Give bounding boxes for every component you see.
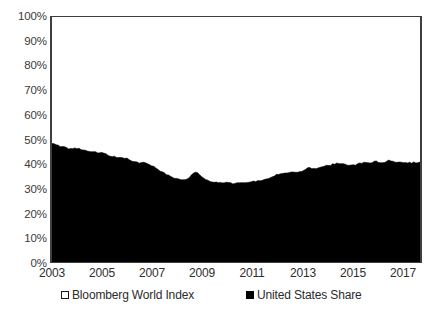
chart-legend: Bloomberg World Index United States Shar… xyxy=(50,288,422,310)
legend-item-united-states-share: United States Share xyxy=(246,288,362,302)
x-axis-tick-label: 2005 xyxy=(80,266,124,280)
y-axis-tick-label: 70% xyxy=(0,84,47,96)
y-axis-tick-label: 60% xyxy=(0,109,47,121)
x-axis-tick-label: 2011 xyxy=(230,266,274,280)
area-chart-svg xyxy=(52,17,420,262)
y-axis-tick-label: 100% xyxy=(0,10,47,22)
legend-filled-square-icon xyxy=(246,291,254,299)
plot-area xyxy=(50,16,422,263)
chart-container: 100% 90% 80% 70% 60% 50% 40% 30% 20% 10%… xyxy=(0,0,435,320)
y-axis-tick-label: 20% xyxy=(0,208,47,220)
x-axis-tick-label: 2009 xyxy=(180,266,224,280)
x-axis-tick-label: 2007 xyxy=(130,266,174,280)
legend-item-bloomberg-world-index: Bloomberg World Index xyxy=(61,288,194,302)
y-axis-tick-label: 90% xyxy=(0,35,47,47)
legend-hollow-square-icon xyxy=(61,291,69,299)
united-states-share-area xyxy=(52,144,420,262)
x-axis-tick-label: 2013 xyxy=(281,266,325,280)
y-axis-tick-label: 40% xyxy=(0,158,47,170)
x-axis-tick-label: 2003 xyxy=(30,266,74,280)
legend-label: United States Share xyxy=(257,288,362,302)
x-axis-tick-label: 2017 xyxy=(381,266,425,280)
y-axis-tick-label: 10% xyxy=(0,232,47,244)
y-axis-tick-label: 80% xyxy=(0,59,47,71)
x-axis-tick-label: 2015 xyxy=(331,266,375,280)
y-axis-tick-label: 30% xyxy=(0,183,47,195)
legend-label: Bloomberg World Index xyxy=(72,288,194,302)
y-axis-tick-label: 50% xyxy=(0,134,47,146)
